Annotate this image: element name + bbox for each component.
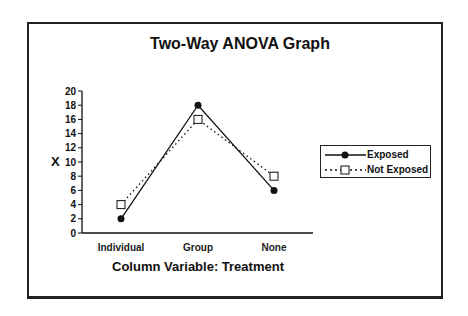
- data-point-square: [117, 201, 125, 209]
- y-tick-label: 12: [65, 142, 77, 153]
- x-category-label: Individual: [98, 242, 145, 253]
- x-category-label: Group: [183, 242, 213, 253]
- y-tick-label: 16: [65, 114, 77, 125]
- y-tick-label: 6: [70, 185, 76, 196]
- x-category-label: None: [262, 242, 287, 253]
- y-tick-label: 8: [70, 171, 76, 182]
- legend-label: Not Exposed: [367, 164, 428, 175]
- y-tick-label: 18: [65, 100, 77, 111]
- data-point-square: [194, 115, 202, 123]
- data-point-circle: [118, 215, 125, 222]
- y-tick-label: 14: [65, 128, 77, 139]
- legend: Exposed Not Exposed: [320, 145, 431, 178]
- legend-label: Exposed: [367, 149, 409, 160]
- data-point-square: [270, 172, 278, 180]
- open-square-marker-icon: [323, 163, 368, 177]
- solid-circle-marker-icon: [323, 148, 368, 162]
- data-point-circle: [195, 102, 202, 109]
- y-tick-label: 20: [65, 86, 77, 97]
- y-tick-label: 10: [65, 157, 77, 168]
- y-tick-label: 4: [70, 199, 76, 210]
- y-tick-label: 0: [70, 228, 76, 239]
- data-point-circle: [271, 187, 278, 194]
- y-tick-label: 2: [70, 213, 76, 224]
- series-line: [121, 119, 274, 204]
